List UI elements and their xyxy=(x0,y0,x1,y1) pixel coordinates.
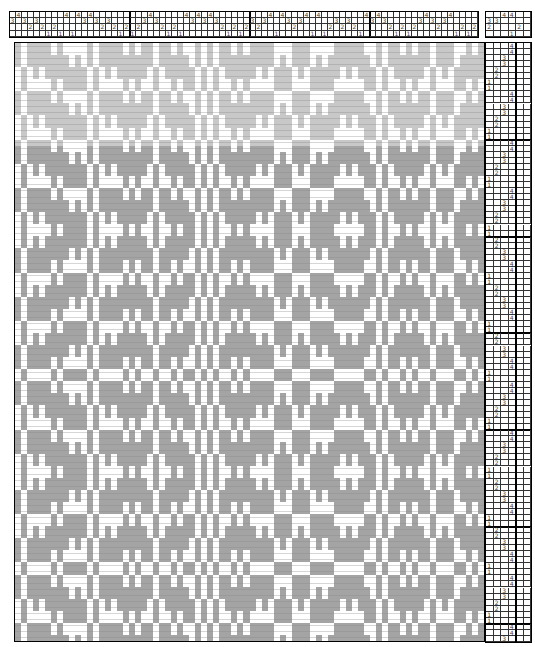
weft-line xyxy=(15,257,484,258)
weft-line xyxy=(15,190,484,191)
weft-line xyxy=(15,263,484,264)
tieup-cell: 1 xyxy=(509,31,517,37)
weft-line xyxy=(15,172,484,173)
weft-line xyxy=(15,468,484,469)
tieup-grid: 4433221 xyxy=(485,11,532,38)
weft-line xyxy=(15,154,484,155)
weft-line xyxy=(15,402,484,403)
weft-line xyxy=(15,493,484,494)
weft-line xyxy=(15,390,484,391)
weft-line xyxy=(15,215,484,216)
weft-line xyxy=(15,625,484,626)
weft-line xyxy=(15,523,484,524)
weft-line xyxy=(15,366,484,367)
weft-line xyxy=(15,130,484,131)
weft-line xyxy=(15,474,484,475)
weft-line xyxy=(15,88,484,89)
weft-line xyxy=(15,112,484,113)
weft-line xyxy=(15,486,484,487)
weft-line xyxy=(15,571,484,572)
weft-line xyxy=(15,553,484,554)
threading-grid: 3432321214143432321212343212143434321212… xyxy=(9,11,479,38)
weft-line xyxy=(15,480,484,481)
weft-line xyxy=(15,529,484,530)
weft-line xyxy=(15,414,484,415)
weft-line xyxy=(15,408,484,409)
weft-line xyxy=(15,58,484,59)
weft-line xyxy=(15,329,484,330)
weft-line xyxy=(15,565,484,566)
weft-line xyxy=(15,227,484,228)
weft-line xyxy=(15,124,484,125)
weft-line xyxy=(15,203,484,204)
weft-line xyxy=(15,251,484,252)
weft-line xyxy=(15,535,484,536)
weft-line xyxy=(15,438,484,439)
weft-line xyxy=(15,444,484,445)
weft-line xyxy=(15,372,484,373)
treadling-grid: 4433221144332211443322114433221122334411… xyxy=(485,42,532,643)
weft-line xyxy=(15,595,484,596)
weft-line xyxy=(15,323,484,324)
weft-line xyxy=(15,420,484,421)
weft-line xyxy=(15,613,484,614)
weft-line xyxy=(15,299,484,300)
weft-line xyxy=(15,317,484,318)
tieup-cell xyxy=(486,31,494,37)
weft-line xyxy=(15,221,484,222)
weft-line xyxy=(15,607,484,608)
weft-line xyxy=(15,354,484,355)
weft-line xyxy=(15,311,484,312)
weft-line xyxy=(15,517,484,518)
weft-line xyxy=(15,94,484,95)
weft-line xyxy=(15,342,484,343)
tieup-cell xyxy=(516,31,524,37)
weft-line xyxy=(15,160,484,161)
treadling-cell: 3 xyxy=(501,636,509,642)
weft-line xyxy=(15,335,484,336)
weft-line xyxy=(15,76,484,77)
weft-line xyxy=(15,275,484,276)
weft-line xyxy=(15,166,484,167)
weft-line xyxy=(15,52,484,53)
weft-line xyxy=(15,462,484,463)
weft-line xyxy=(15,378,484,379)
weft-line xyxy=(15,82,484,83)
weft-line xyxy=(15,396,484,397)
weft-line xyxy=(15,456,484,457)
weft-line xyxy=(15,148,484,149)
weft-line xyxy=(15,239,484,240)
weft-line xyxy=(15,209,484,210)
drawdown-area xyxy=(14,42,485,642)
weft-line xyxy=(15,100,484,101)
weft-line xyxy=(15,583,484,584)
weft-line xyxy=(15,589,484,590)
threading-cell xyxy=(472,31,478,37)
weft-line xyxy=(15,426,484,427)
weft-line xyxy=(15,70,484,71)
weft-line xyxy=(15,384,484,385)
tieup-cell xyxy=(494,31,502,37)
weft-line xyxy=(15,46,484,47)
treadling-cell xyxy=(486,636,494,642)
weft-line xyxy=(15,505,484,506)
treadling-cell xyxy=(494,636,502,642)
weft-line xyxy=(15,305,484,306)
tieup-cell xyxy=(524,31,532,37)
weft-line xyxy=(15,106,484,107)
weft-line xyxy=(15,511,484,512)
weft-line xyxy=(15,432,484,433)
treadling-cell xyxy=(516,636,524,642)
weft-line xyxy=(15,281,484,282)
weft-line xyxy=(15,577,484,578)
weft-line xyxy=(15,197,484,198)
weft-line xyxy=(15,269,484,270)
weft-line xyxy=(15,287,484,288)
weft-line xyxy=(15,293,484,294)
treadling-cell xyxy=(524,636,532,642)
weft-line xyxy=(15,245,484,246)
weft-line xyxy=(15,547,484,548)
weft-line xyxy=(15,499,484,500)
weft-line xyxy=(15,348,484,349)
weft-line xyxy=(15,360,484,361)
